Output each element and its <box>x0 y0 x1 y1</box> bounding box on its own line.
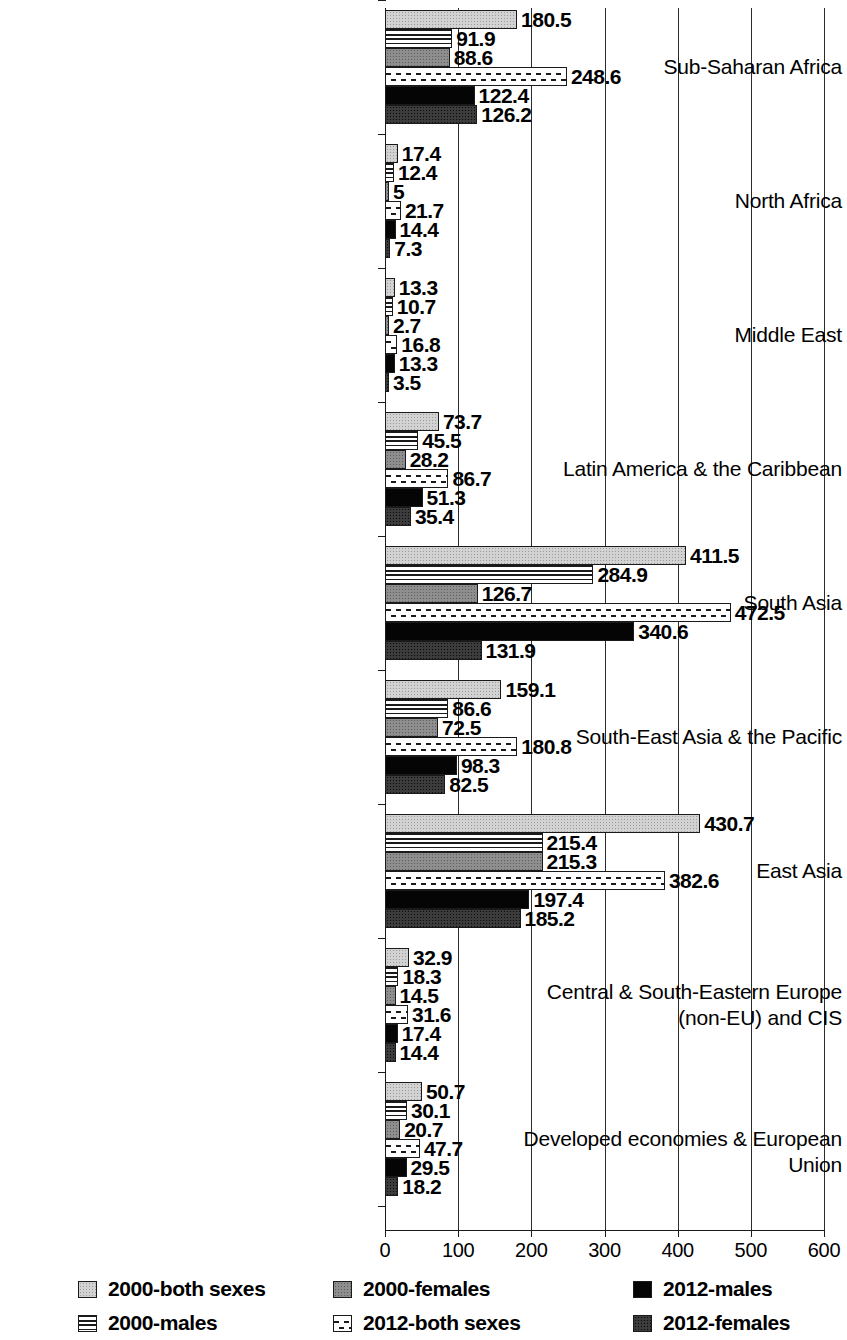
x-tick-400 <box>678 1230 679 1237</box>
legend-swatch-2000-females <box>333 1281 352 1298</box>
x-tick-200 <box>531 1230 532 1237</box>
legend-swatch-2000-both-sexes <box>78 1281 97 1298</box>
x-tick-label-300: 300 <box>575 1239 635 1262</box>
bar-0-0 <box>385 10 517 29</box>
bar-group-2: 13.310.72.716.813.33.5 <box>385 278 824 392</box>
bar-row: 45.5 <box>385 431 824 450</box>
bar-row: 180.8 <box>385 737 824 756</box>
x-tick-300 <box>605 1230 606 1237</box>
legend-label: 2000-females <box>363 1277 490 1301</box>
bar-2-0 <box>385 48 450 67</box>
bar-value-label: 18.2 <box>402 1174 441 1199</box>
bar-row: 180.5 <box>385 10 824 29</box>
category-tick <box>378 134 386 135</box>
bar-row: 13.3 <box>385 354 824 373</box>
legend-swatch-2012-both-sexes <box>333 1315 352 1332</box>
bar-2-7 <box>385 986 396 1005</box>
legend-swatch-2012-males <box>633 1281 652 1298</box>
bar-row: 31.6 <box>385 1005 824 1024</box>
bar-value-label: 126.2 <box>481 102 531 127</box>
bar-row: 430.7 <box>385 814 824 833</box>
bar-group-4: 411.5284.9126.7472.5340.6131.9 <box>385 546 824 660</box>
bar-3-2 <box>385 335 397 354</box>
bar-row: 284.9 <box>385 565 824 584</box>
bar-group-7: 32.918.314.531.617.414.4 <box>385 948 824 1062</box>
legend-swatch-2012-females <box>633 1315 652 1332</box>
category-tick <box>378 1206 386 1207</box>
bar-4-7 <box>385 1024 398 1043</box>
bar-0-2 <box>385 278 395 297</box>
x-tick-100 <box>458 1230 459 1237</box>
bar-group-8: 50.730.120.747.729.518.2 <box>385 1082 824 1196</box>
legend-item[interactable]: 2012-males <box>633 1272 790 1306</box>
category-tick <box>378 0 386 1</box>
bar-5-5 <box>385 775 445 794</box>
bar-row: 12.4 <box>385 163 824 182</box>
bar-0-1 <box>385 144 398 163</box>
category-tick <box>378 670 386 671</box>
bar-row: 3.5 <box>385 373 824 392</box>
x-tick-label-400: 400 <box>648 1239 708 1262</box>
category-tick <box>378 938 386 939</box>
bar-value-label: 14.4 <box>400 1040 439 1065</box>
bar-5-7 <box>385 1043 396 1062</box>
bar-row: 10.7 <box>385 297 824 316</box>
bar-group-6: 430.7215.4215.3382.6197.4185.2 <box>385 814 824 928</box>
bar-row: 248.6 <box>385 67 824 86</box>
bar-row: 197.4 <box>385 890 824 909</box>
legend-item[interactable]: 2012-females <box>633 1306 790 1340</box>
bar-1-6 <box>385 833 543 852</box>
bar-row: 2.7 <box>385 316 824 335</box>
legend-swatch-2000-males <box>78 1315 97 1332</box>
legend-label: 2012-females <box>663 1311 790 1335</box>
category-tick <box>378 268 386 269</box>
chart-legend: 2000-both sexes2000-males2000-females201… <box>0 1272 842 1340</box>
legend-column-2: 2012-males2012-females <box>633 1272 790 1340</box>
bar-1-5 <box>385 699 448 718</box>
category-tick <box>378 1072 386 1073</box>
legend-item[interactable]: 2000-females <box>333 1272 520 1306</box>
bar-row: 72.5 <box>385 718 824 737</box>
bar-5-3 <box>385 507 411 526</box>
bar-value-label: 185.2 <box>525 906 575 931</box>
bar-row: 29.5 <box>385 1158 824 1177</box>
bar-1-2 <box>385 297 393 316</box>
bar-4-6 <box>385 890 529 909</box>
bar-value-label: 35.4 <box>415 504 454 529</box>
bar-row: 382.6 <box>385 871 824 890</box>
bar-row: 215.3 <box>385 852 824 871</box>
bar-3-0 <box>385 67 567 86</box>
x-tick-500 <box>751 1230 752 1237</box>
bar-3-1 <box>385 201 401 220</box>
bar-value-label: 131.9 <box>486 638 536 663</box>
bar-2-8 <box>385 1120 400 1139</box>
bar-row: 82.5 <box>385 775 824 794</box>
bar-row: 5 <box>385 182 824 201</box>
legend-item[interactable]: 2012-both sexes <box>333 1306 520 1340</box>
bar-group-5: 159.186.672.5180.898.382.5 <box>385 680 824 794</box>
bar-group-0: 180.591.988.6248.6122.4126.2 <box>385 10 824 124</box>
bar-row: 47.7 <box>385 1139 824 1158</box>
bar-row: 185.2 <box>385 909 824 928</box>
bar-row: 21.7 <box>385 201 824 220</box>
bar-row: 32.9 <box>385 948 824 967</box>
category-tick <box>378 536 386 537</box>
bar-row: 13.3 <box>385 278 824 297</box>
bar-row: 30.1 <box>385 1101 824 1120</box>
bar-row: 35.4 <box>385 507 824 526</box>
legend-item[interactable]: 2000-both sexes <box>78 1272 265 1306</box>
legend-label: 2000-males <box>108 1311 217 1335</box>
bar-5-4 <box>385 641 482 660</box>
x-tick-label-200: 200 <box>501 1239 561 1262</box>
legend-label: 2000-both sexes <box>108 1277 265 1301</box>
x-tick-label-100: 100 <box>428 1239 488 1262</box>
bar-value-label: 3.5 <box>393 370 421 395</box>
bar-value-label: 82.5 <box>449 772 488 797</box>
bar-row: 340.6 <box>385 622 824 641</box>
x-tick-label-500: 500 <box>721 1239 781 1262</box>
category-tick <box>378 402 386 403</box>
bar-2-3 <box>385 450 406 469</box>
bar-0-6 <box>385 814 700 833</box>
legend-item[interactable]: 2000-males <box>78 1306 265 1340</box>
